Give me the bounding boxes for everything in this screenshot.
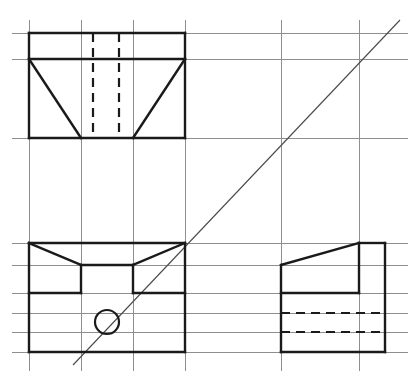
orthographic-projection-svg: [0, 0, 418, 377]
paper-background: [0, 0, 418, 377]
drawing-canvas: [0, 0, 418, 377]
